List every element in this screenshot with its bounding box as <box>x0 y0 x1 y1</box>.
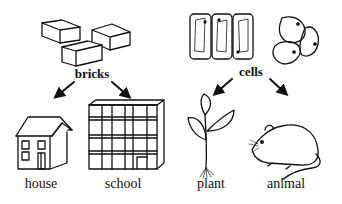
label-house: house <box>25 176 58 192</box>
label-animal: animal <box>267 176 305 192</box>
diagram-canvas <box>0 0 342 204</box>
label-school: school <box>105 176 142 192</box>
mouse-icon <box>249 125 320 180</box>
plant-icon <box>188 94 234 178</box>
house-icon <box>16 117 72 169</box>
cells-icon <box>190 14 318 64</box>
label-plant: plant <box>197 176 225 192</box>
label-bricks: bricks <box>75 66 110 82</box>
school-building-icon <box>89 100 164 169</box>
label-cells: cells <box>239 64 263 80</box>
bricks-icon <box>42 20 130 66</box>
